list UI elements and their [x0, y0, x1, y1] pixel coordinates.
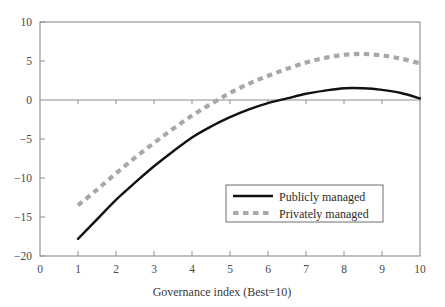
- y-tick-label: −10: [14, 172, 32, 184]
- x-tick-label: 3: [151, 263, 157, 275]
- y-tick-label: 0: [26, 94, 32, 106]
- legend-label: Publicly managed: [279, 190, 365, 204]
- x-tick-label: 2: [113, 263, 119, 275]
- y-tick-label: 5: [26, 55, 32, 67]
- chart-legend: Publicly managedPrivately managed: [226, 185, 383, 222]
- y-tick-label: −15: [14, 211, 32, 223]
- x-tick-label: 4: [189, 263, 195, 275]
- x-tick-label: 10: [414, 263, 426, 275]
- x-tick-label: 7: [303, 263, 309, 275]
- x-tick-label: 8: [341, 263, 347, 275]
- x-tick-label: 6: [265, 263, 271, 275]
- y-tick-label: −5: [20, 133, 32, 145]
- series-line-privately-managed: [78, 54, 420, 205]
- x-tick-label: 1: [75, 263, 81, 275]
- legend-label: Privately managed: [279, 207, 369, 221]
- y-tick-label: −20: [14, 250, 32, 262]
- governance-index-line-chart: 1050−5−10−15−20 012345678910 Governance …: [0, 0, 445, 307]
- y-tick-label: 10: [21, 16, 33, 28]
- x-tick-label: 5: [227, 263, 233, 275]
- x-axis-title: Governance index (Best=10): [153, 285, 292, 299]
- chart-container: 1050−5−10−15−20 012345678910 Governance …: [0, 0, 445, 307]
- x-tick-label: 0: [37, 263, 43, 275]
- x-tick-label: 9: [379, 263, 385, 275]
